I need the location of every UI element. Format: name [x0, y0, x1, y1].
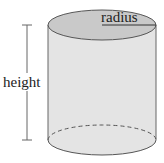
cylinder-diagram: radius height — [0, 0, 164, 163]
cylinder-body — [48, 25, 156, 155]
height-label: height — [3, 74, 41, 90]
radius-label: radius — [101, 9, 138, 25]
